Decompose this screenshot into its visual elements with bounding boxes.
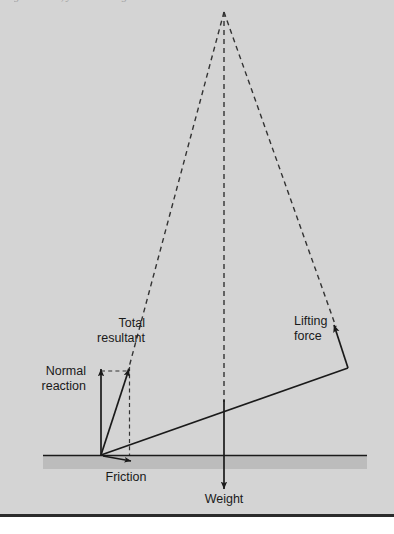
label-weight: Weight [184, 492, 264, 507]
label-lifting-force: Lifting force [294, 314, 364, 343]
figure-page: g the same, you are doing less work [0, 0, 394, 534]
dashed-right-line [224, 12, 336, 327]
force-diagram [0, 0, 394, 516]
label-friction: Friction [78, 470, 174, 485]
ground-band [43, 456, 367, 469]
total-resultant-vector [101, 369, 129, 455]
label-total-resultant: Total resultant [40, 316, 145, 345]
bottom-divider-rule [0, 514, 394, 517]
label-normal-reaction: Normal reaction [6, 364, 86, 393]
